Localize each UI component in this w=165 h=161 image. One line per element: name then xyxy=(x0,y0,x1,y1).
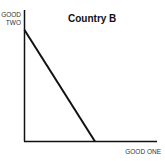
ppf-line xyxy=(25,30,95,142)
chart-plot xyxy=(0,0,165,161)
